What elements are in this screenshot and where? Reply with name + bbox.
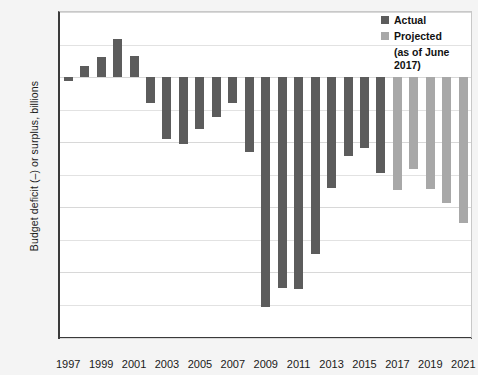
bar-2021	[459, 77, 468, 223]
x-axis-tick-label: 1999	[89, 358, 113, 370]
x-axis-tick-label: 1997	[56, 358, 80, 370]
bar-2009	[261, 77, 270, 307]
legend-item-actual: Actual	[381, 14, 478, 27]
bar-2014	[344, 77, 353, 156]
chart-legend: Actual Projected (as of June 2017)	[381, 14, 478, 72]
bar-2006	[212, 77, 221, 117]
x-axis-tick-label: 2017	[385, 358, 409, 370]
x-axis-tick-label: 2007	[221, 358, 245, 370]
bar-2011	[294, 77, 303, 289]
x-axis-tick-label: 2013	[319, 358, 343, 370]
bar-2003	[162, 77, 171, 139]
x-axis-tick-label: 2003	[155, 358, 179, 370]
bar-2018	[409, 77, 418, 169]
bar-2002	[146, 77, 155, 103]
legend-sublabel-projected: (as of June 2017)	[394, 46, 478, 72]
gridline-major	[60, 338, 471, 339]
bar-2004	[179, 77, 188, 144]
chart-figure: Budget deficit (–) or surplus, billions …	[0, 0, 478, 375]
bar-2013	[327, 77, 336, 188]
x-axis-tick-label: 2021	[451, 358, 475, 370]
x-axis-tick-label: 2019	[418, 358, 442, 370]
x-axis-tick-label: 2015	[352, 358, 376, 370]
bar-2000	[113, 39, 122, 77]
bar-2007	[228, 77, 237, 103]
bar-2016	[376, 77, 385, 173]
legend-label-actual: Actual	[394, 14, 426, 27]
legend-swatch-actual-icon	[381, 16, 389, 24]
legend-item-projected: Projected	[381, 30, 478, 43]
bar-2020	[442, 77, 451, 203]
legend-swatch-projected-icon	[381, 32, 389, 40]
bar-2005	[195, 77, 204, 129]
gridline-major	[60, 12, 471, 13]
bar-2012	[311, 77, 320, 254]
bar-2015	[360, 77, 369, 148]
x-axis-tick-label: 2009	[254, 358, 278, 370]
bar-1998	[80, 66, 89, 77]
x-axis-tick-label: 2001	[122, 358, 146, 370]
x-axis-tick-label: 2011	[287, 358, 311, 370]
bar-1999	[97, 57, 106, 78]
x-axis-tick-label: 2005	[188, 358, 212, 370]
bar-1997	[64, 77, 73, 81]
bar-2008	[245, 77, 254, 152]
y-axis-title: Budget deficit (–) or surplus, billions	[28, 46, 40, 286]
legend-label-projected: Projected	[394, 30, 442, 43]
bar-2010	[278, 77, 287, 288]
bar-2001	[130, 56, 139, 77]
bar-2017	[393, 77, 402, 190]
bar-2019	[426, 77, 435, 189]
